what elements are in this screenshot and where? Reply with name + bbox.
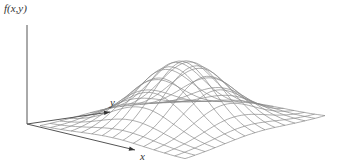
mesh-line — [40, 126, 185, 159]
mesh-line — [50, 100, 190, 127]
mesh-line — [90, 78, 235, 140]
x-axis-arrowhead-icon — [129, 146, 135, 150]
surface-plot-canvas — [0, 0, 342, 168]
mesh-line — [81, 80, 221, 133]
mesh-line — [185, 116, 325, 159]
vertical-axis-label: f(x,y) — [4, 2, 27, 14]
mesh-line — [71, 90, 211, 131]
mesh-line — [60, 119, 205, 152]
x-axis-line — [27, 124, 135, 150]
y-axis-label: y — [110, 96, 115, 108]
mesh-line — [80, 92, 225, 143]
mesh-line — [61, 98, 201, 129]
mesh-line — [175, 114, 315, 156]
x-axis-label: x — [140, 150, 145, 162]
axes-group — [27, 25, 135, 151]
y-axis-arrowhead-icon — [104, 111, 110, 115]
gaussian-surface-mesh — [40, 61, 325, 159]
